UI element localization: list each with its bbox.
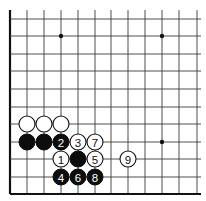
white-stone-5[interactable]: 5	[87, 151, 103, 167]
star-point	[160, 140, 164, 144]
black-stone-2[interactable]: 2	[53, 134, 69, 150]
stones-layer: 237159468	[19, 116, 136, 185]
white-stone-3[interactable]: 3	[70, 134, 86, 150]
black-stone-8[interactable]: 8	[87, 169, 103, 185]
move-number: 9	[125, 154, 131, 166]
white-stone-7[interactable]: 7	[87, 134, 103, 150]
stone-body	[19, 134, 35, 150]
move-number: 6	[75, 172, 81, 184]
move-number: 2	[58, 137, 64, 149]
black-stone[interactable]	[36, 134, 52, 150]
star-point	[160, 34, 164, 38]
move-number: 4	[58, 172, 65, 184]
stone-body	[53, 116, 69, 132]
white-stone-9[interactable]: 9	[120, 151, 136, 167]
move-number: 1	[58, 154, 64, 166]
move-number: 5	[92, 154, 98, 166]
stone-body	[70, 151, 86, 167]
stone-body	[36, 134, 52, 150]
black-stone[interactable]	[19, 134, 35, 150]
go-board[interactable]: 237159468	[0, 0, 206, 201]
move-number: 8	[92, 172, 98, 184]
black-stone-4[interactable]: 4	[53, 169, 69, 185]
move-number: 7	[92, 137, 98, 149]
star-point	[59, 34, 63, 38]
black-stone-6[interactable]: 6	[70, 169, 86, 185]
white-stone[interactable]	[36, 116, 52, 132]
stone-body	[36, 116, 52, 132]
white-stone[interactable]	[53, 116, 69, 132]
stone-body	[19, 116, 35, 132]
black-stone[interactable]	[70, 151, 86, 167]
white-stone[interactable]	[19, 116, 35, 132]
white-stone-1[interactable]: 1	[53, 151, 69, 167]
board-grid	[10, 10, 201, 194]
move-number: 3	[75, 137, 81, 149]
